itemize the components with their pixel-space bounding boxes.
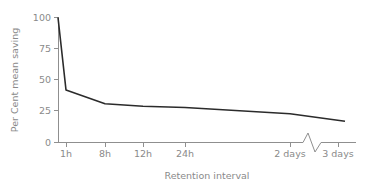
y-tick-label-75: 75 [39,43,51,54]
forgetting-curve-chart: 100 75 50 25 0 1h 8h 12h 24h 2 days 3 da… [0,0,370,190]
y-tick-label-50: 50 [39,74,51,85]
x-tick-label-24h: 24h [176,148,194,159]
y-axis-title: Per Cent mean saving [9,28,20,132]
chart-canvas: 100 75 50 25 0 1h 8h 12h 24h 2 days 3 da… [0,0,370,190]
x-tick-label-8h: 8h [99,148,111,159]
y-tick-label-100: 100 [33,12,51,23]
x-tick-label-3days: 3 days [322,148,354,159]
x-tick-label-2days: 2 days [274,148,306,159]
y-tick-label-25: 25 [39,105,51,116]
forgetting-curve-line [58,18,345,122]
x-tick-label-1h: 1h [60,148,72,159]
x-tick-label-12h: 12h [134,148,152,159]
y-tick-label-0: 0 [45,137,51,148]
x-axis-title: Retention interval [164,170,249,181]
